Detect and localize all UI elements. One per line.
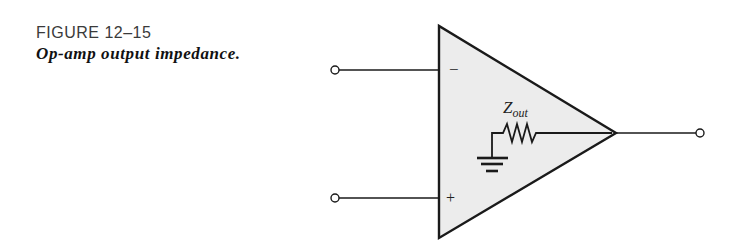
minus-sign: − [449, 60, 459, 79]
noninverting-input-terminal[interactable] [331, 194, 339, 202]
zout-subscript: out [512, 106, 528, 120]
op-amp-diagram: − + Zout [0, 0, 738, 241]
output [616, 129, 704, 137]
output-terminal[interactable] [696, 129, 704, 137]
noninverting-input [331, 194, 439, 202]
plus-sign: + [446, 189, 455, 206]
inverting-input-terminal[interactable] [331, 66, 339, 74]
op-amp-triangle [439, 26, 616, 238]
inverting-input [331, 66, 439, 74]
